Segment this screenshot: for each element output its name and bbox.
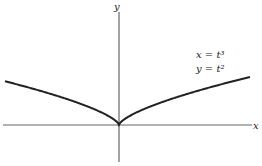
equation-y: y = t² (195, 63, 224, 74)
equation-x: x = t³ (196, 49, 224, 60)
y-axis-label: y (113, 1, 120, 12)
cusp-curve (5, 77, 250, 125)
parametric-plot: x y x = t³ y = t² (0, 0, 262, 166)
x-axis-label: x (253, 120, 259, 131)
